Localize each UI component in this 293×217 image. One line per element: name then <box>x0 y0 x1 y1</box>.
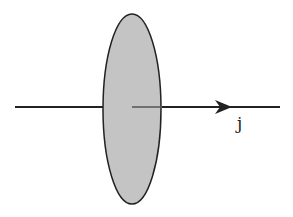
diagram-canvas <box>0 0 293 217</box>
surface-ellipse <box>103 14 161 204</box>
vector-label-j: j <box>237 113 242 133</box>
